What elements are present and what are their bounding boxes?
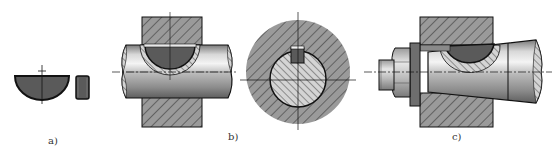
nut [392, 48, 410, 97]
subfigure-b-longitudinal: b) [112, 12, 238, 142]
key-section [291, 48, 304, 63]
hub-top [142, 17, 202, 45]
subfigure-a: a) [15, 65, 89, 146]
washer [410, 43, 420, 106]
subfigure-c: c) [364, 17, 552, 142]
hub-c-top [420, 17, 493, 45]
subfigure-b-cross-section [240, 12, 356, 130]
label-a: a) [48, 135, 58, 146]
label-c: c) [452, 131, 462, 142]
label-b: b) [228, 131, 238, 142]
key-diagram: a) b) [0, 0, 557, 158]
hub-bottom [142, 97, 202, 127]
